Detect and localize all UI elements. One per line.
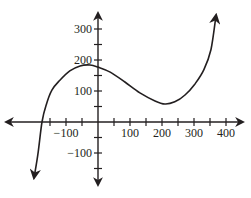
x-tick-label: 300 xyxy=(185,126,203,140)
function-curve xyxy=(34,15,216,178)
x-tick-label: 100 xyxy=(121,126,139,140)
x-tick-label: −100 xyxy=(54,126,79,140)
y-tick-label: 100 xyxy=(74,84,92,98)
x-tick-label: 200 xyxy=(153,126,171,140)
tick-labels: −100100200300400300200100−100 xyxy=(54,22,235,160)
x-tick-label: 400 xyxy=(217,126,235,140)
axes xyxy=(6,13,243,185)
y-tick-label: 300 xyxy=(74,22,92,36)
y-tick-label: −100 xyxy=(67,146,92,160)
cubic-function-graph: −100100200300400300200100−100 xyxy=(0,0,251,198)
